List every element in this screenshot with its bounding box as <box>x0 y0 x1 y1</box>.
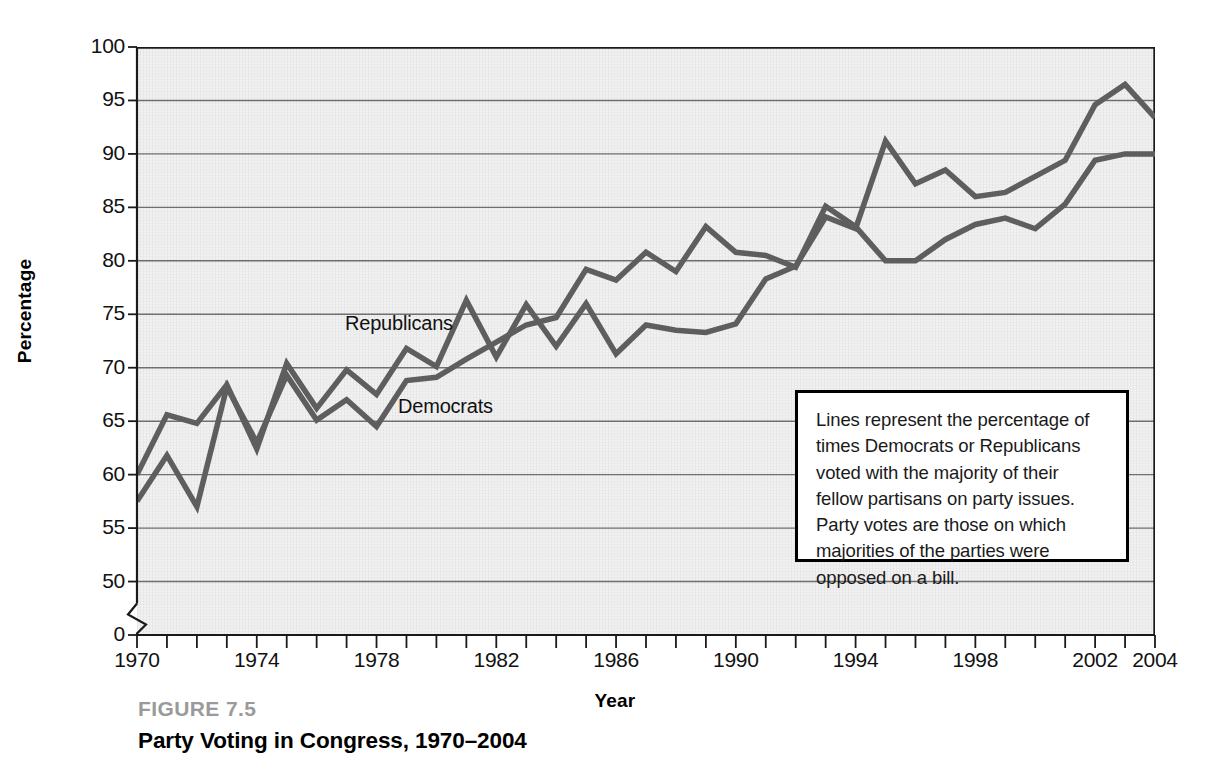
y-tick-label: 100 <box>91 34 125 58</box>
x-tick-label: 1978 <box>354 648 400 672</box>
series-label-republicans: Republicans <box>345 312 453 335</box>
figure-title: Party Voting in Congress, 1970–2004 <box>138 728 1038 754</box>
y-axis-title: Percentage <box>14 241 36 381</box>
x-tick-label: 2004 <box>1132 648 1178 672</box>
x-tick-label: 1994 <box>833 648 879 672</box>
series-label-democrats: Democrats <box>398 395 493 418</box>
x-tick-label: 2002 <box>1072 648 1118 672</box>
annotation-text: Lines represent the percentage of times … <box>816 407 1110 591</box>
annotation-box: Lines represent the percentage of times … <box>795 390 1129 562</box>
y-tick-label: 50 <box>102 569 125 593</box>
x-tick-label: 1970 <box>114 648 160 672</box>
figure-number: FIGURE 7.5 <box>138 697 1038 721</box>
figure-container: 100959085807570656055500 Percentage Repu… <box>0 0 1230 774</box>
y-tick-label: 70 <box>102 355 125 379</box>
y-tick-label: 55 <box>102 515 125 539</box>
x-tick-label: 1974 <box>234 648 280 672</box>
x-tick-label: 1998 <box>953 648 999 672</box>
y-tick-label: 85 <box>102 194 125 218</box>
x-axis-labels: 1970197419781982198619901994199820022004 <box>0 648 1230 678</box>
x-tick-label: 1990 <box>713 648 759 672</box>
y-tick-label: 65 <box>102 408 125 432</box>
figure-caption: FIGURE 7.5 Party Voting in Congress, 197… <box>138 697 1038 754</box>
y-tick-label: 90 <box>102 141 125 165</box>
y-tick-label: 0 <box>114 622 125 646</box>
y-tick-label: 80 <box>102 248 125 272</box>
y-tick-label: 75 <box>102 301 125 325</box>
x-tick-label: 1982 <box>474 648 520 672</box>
y-tick-label: 95 <box>102 87 125 111</box>
y-tick-label: 60 <box>102 462 125 486</box>
x-tick-label: 1986 <box>593 648 639 672</box>
